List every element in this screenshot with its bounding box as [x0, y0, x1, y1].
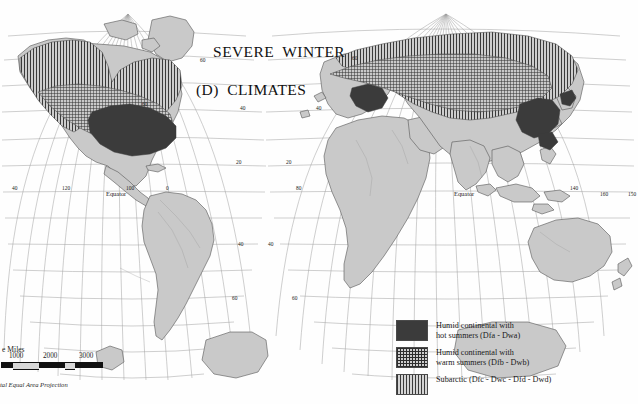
equator-label-left: Equator — [106, 190, 127, 197]
svg-text:60: 60 — [232, 295, 238, 301]
legend-label-warm-summers: Humid continental with warm summers (Dfb… — [436, 347, 529, 367]
legend-swatch-hot-summers — [396, 320, 428, 341]
svg-text:100: 100 — [126, 185, 134, 191]
svg-text:80: 80 — [296, 185, 302, 191]
page-title: SEVERE WINTER (D) CLIMATES — [196, 23, 386, 137]
legend-swatch-subarctic — [396, 374, 428, 395]
legend-label-hot-summers: Humid continental with hot summers (Dfa … — [436, 320, 520, 340]
scale-bar-block: e Miles 1000 2000 3000 — [0, 345, 120, 368]
legend-item-warm-summers: Humid continental with warm summers (Dfb… — [396, 347, 636, 368]
svg-text:40: 40 — [12, 185, 18, 191]
scale-tick-1000: 1000 — [9, 352, 23, 360]
legend-item-subarctic: Subarctic (Dfc - Dwc - Dfd - Dwd) — [396, 374, 636, 395]
svg-text:60: 60 — [142, 101, 148, 107]
title-line-1: SEVERE WINTER — [213, 43, 345, 60]
legend-label-subarctic: Subarctic (Dfc - Dwc - Dfd - Dwd) — [436, 374, 551, 385]
svg-text:40: 40 — [238, 241, 244, 247]
svg-text:20: 20 — [236, 159, 242, 165]
svg-text:20: 20 — [286, 159, 292, 165]
svg-text:140: 140 — [570, 185, 578, 191]
svg-text:40: 40 — [268, 241, 274, 247]
svg-text:120: 120 — [62, 185, 70, 191]
svg-text:0: 0 — [166, 185, 169, 191]
scale-tick-3000: 3000 — [79, 352, 93, 360]
projection-note: tal Equal Area Projection — [0, 381, 68, 388]
scale-tick-2000: 2000 — [43, 352, 57, 360]
scale-bar: 1000 2000 3000 — [1, 362, 103, 368]
svg-text:160: 160 — [600, 191, 608, 197]
legend-swatch-warm-summers — [396, 347, 428, 368]
title-line-2: (D) CLIMATES — [196, 80, 386, 99]
legend-item-hot-summers: Humid continental with hot summers (Dfa … — [396, 320, 636, 341]
svg-text:60: 60 — [292, 295, 298, 301]
svg-text:150: 150 — [628, 191, 636, 197]
map-legend: Humid continental with hot summers (Dfa … — [396, 320, 636, 401]
equator-label-right: Equator — [454, 190, 475, 197]
map-canvas: Equator Equator 40 120 100 0 80 140 160 … — [0, 0, 638, 404]
